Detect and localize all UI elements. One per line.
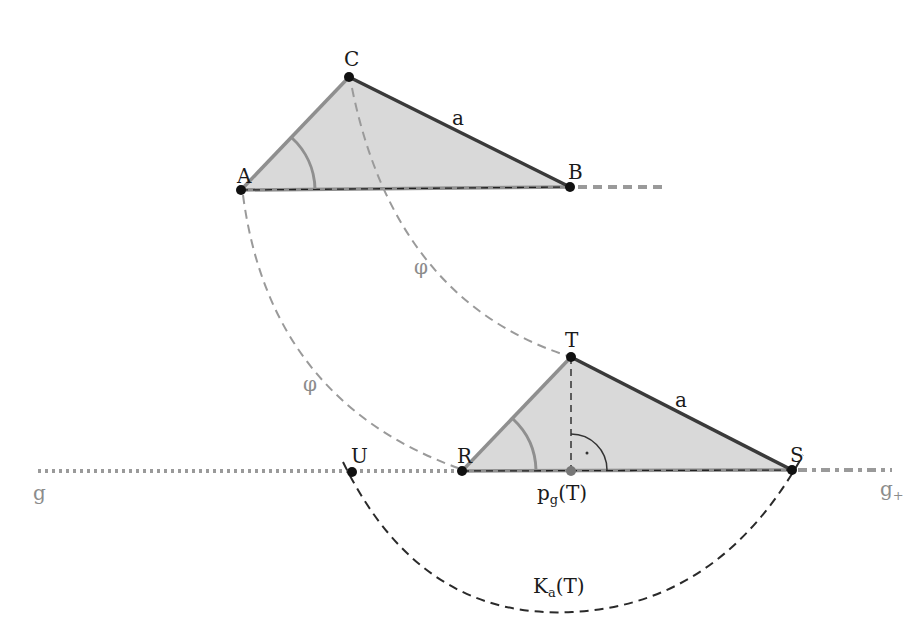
- pg-tail: (T): [558, 481, 587, 505]
- label-b: B: [568, 160, 583, 184]
- geometry-diagram: A B C T R S U a a φ φ g g+ pg(T) Ka(T): [0, 0, 922, 630]
- label-s: S: [790, 443, 804, 467]
- label-side-a-top: a: [452, 106, 464, 130]
- label-foot-pg-t: pg(T): [537, 481, 587, 507]
- label-r: R: [457, 444, 473, 468]
- g-plus-main: g: [880, 477, 893, 501]
- label-line-g-plus: g+: [880, 477, 904, 503]
- point-foot-pg-t[interactable]: [566, 466, 576, 476]
- label-circle-ka-t: Ka(T): [533, 574, 585, 600]
- label-line-g: g: [33, 481, 46, 505]
- right-angle-dot: [586, 452, 589, 455]
- label-u: U: [351, 444, 368, 468]
- triangle-rst: [462, 357, 792, 471]
- label-side-a-bottom: a: [675, 388, 687, 412]
- point-u[interactable]: [347, 467, 357, 477]
- point-c[interactable]: [344, 72, 354, 82]
- label-phi-upper: φ: [414, 255, 428, 279]
- label-phi-lower: φ: [303, 372, 317, 396]
- label-c: C: [344, 47, 359, 71]
- arc-a-to-r: [243, 195, 458, 468]
- point-t[interactable]: [566, 352, 576, 362]
- label-a: A: [236, 164, 252, 188]
- label-t: T: [565, 328, 579, 352]
- pg-main: p: [537, 481, 550, 505]
- g-plus-sub: +: [893, 488, 904, 503]
- ka-tail: (T): [556, 574, 585, 598]
- ka-main: K: [533, 574, 549, 598]
- triangle-abc: [241, 77, 570, 190]
- labels: A B C T R S U a a φ φ g g+ pg(T) Ka(T): [33, 47, 904, 600]
- pg-sub: g: [550, 492, 558, 507]
